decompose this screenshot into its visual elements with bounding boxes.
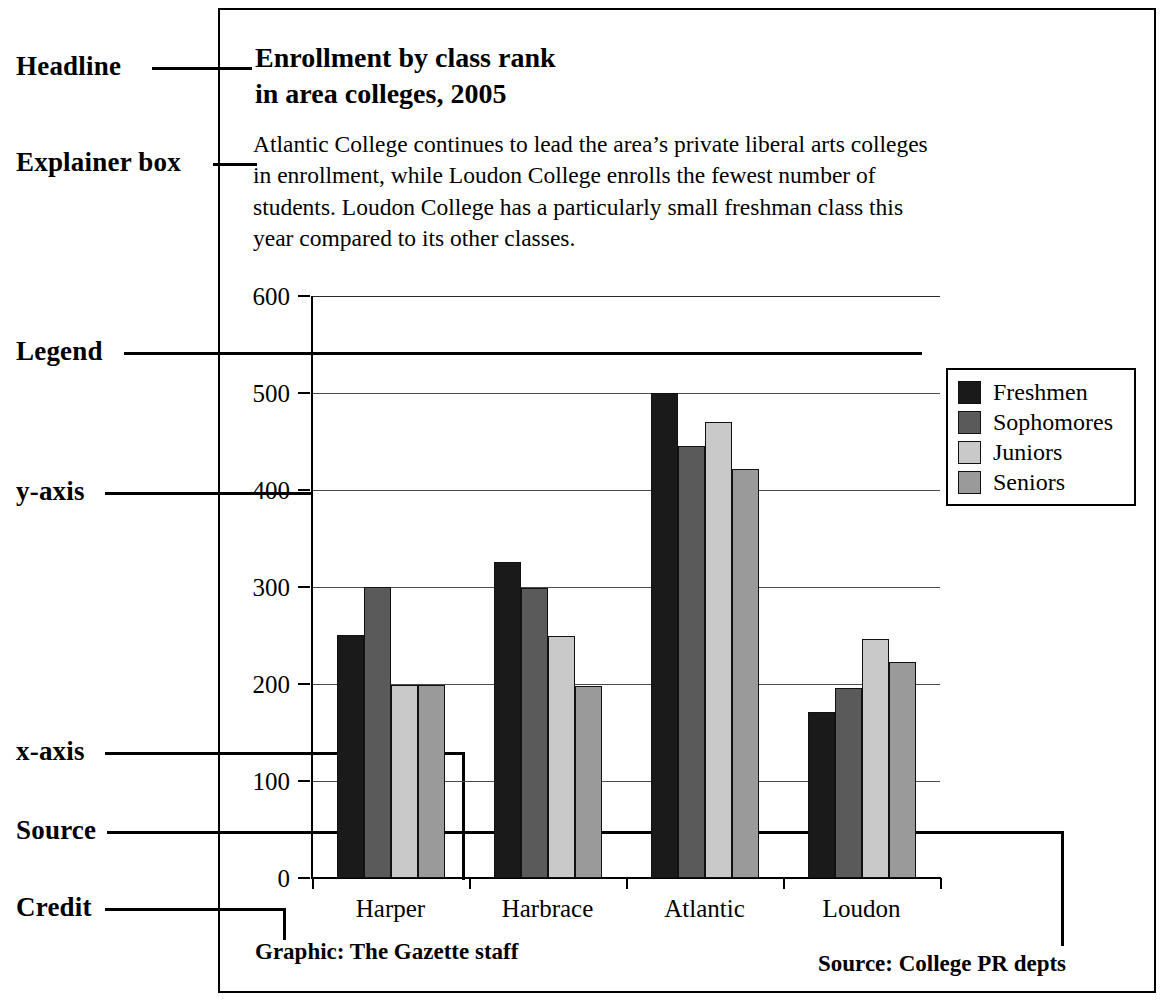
bar bbox=[548, 636, 575, 878]
y-tick-mark-300 bbox=[298, 586, 310, 588]
x-tick-label-harbrace: Harbrace bbox=[502, 896, 594, 921]
bar bbox=[732, 469, 759, 878]
bar bbox=[364, 587, 391, 878]
annotation-label-explainer-box: Explainer box bbox=[16, 149, 181, 176]
headline-line-2: in area colleges, 2005 bbox=[255, 76, 895, 112]
x-tick-mark bbox=[626, 878, 628, 889]
bar bbox=[521, 588, 548, 878]
legend-item: Seniors bbox=[958, 467, 1134, 497]
credit-text: Graphic: The Gazette staff bbox=[255, 940, 518, 963]
y-tick-label-600: 600 bbox=[253, 284, 291, 309]
plot-area: HarperHarbraceAtlanticLoudon bbox=[312, 296, 940, 878]
bar bbox=[651, 393, 678, 878]
y-tick-label-100: 100 bbox=[253, 769, 291, 794]
x-tick-label-loudon: Loudon bbox=[823, 896, 901, 921]
y-tick-mark-600 bbox=[298, 295, 310, 297]
bar bbox=[678, 446, 705, 878]
annotation-label-legend: Legend bbox=[16, 338, 103, 365]
y-tick-mark-0 bbox=[298, 877, 310, 879]
x-tick-mark bbox=[783, 878, 785, 889]
x-tick-label-atlantic: Atlantic bbox=[664, 896, 745, 921]
y-tick-mark-100 bbox=[298, 780, 310, 782]
page-title: Enrollment by class rank in area college… bbox=[255, 40, 895, 112]
bar-group bbox=[808, 296, 916, 878]
x-tick-label-harper: Harper bbox=[356, 896, 425, 921]
y-tick-label-500: 500 bbox=[253, 381, 291, 406]
legend-swatch-icon bbox=[958, 381, 981, 404]
annotation-label-source: Source bbox=[16, 817, 96, 844]
bar bbox=[808, 712, 835, 878]
y-tick-label-300: 300 bbox=[253, 575, 291, 600]
bar bbox=[575, 686, 602, 878]
legend-item-label: Sophomores bbox=[993, 410, 1113, 434]
y-tick-label-400: 400 bbox=[253, 478, 291, 503]
bar-chart: HarperHarbraceAtlanticLoudon bbox=[312, 296, 940, 878]
headline-line-1: Enrollment by class rank bbox=[255, 40, 895, 76]
legend-swatch-icon bbox=[958, 471, 981, 494]
legend-item-label: Juniors bbox=[993, 440, 1062, 464]
legend-item: Sophomores bbox=[958, 407, 1134, 437]
bar bbox=[391, 685, 418, 878]
annotation-label-y-axis: y-axis bbox=[16, 478, 85, 505]
legend-item: Freshmen bbox=[958, 377, 1134, 407]
bar bbox=[494, 562, 521, 878]
y-axis-tick-labels: 0100200300400500600 bbox=[232, 296, 290, 878]
bar-series-container: HarperHarbraceAtlanticLoudon bbox=[312, 296, 940, 878]
annotation-label-x-axis: x-axis bbox=[16, 738, 85, 765]
legend-swatch-icon bbox=[958, 441, 981, 464]
bar bbox=[337, 635, 364, 878]
bar bbox=[862, 639, 889, 878]
legend-swatch-icon bbox=[958, 411, 981, 434]
x-tick-mark bbox=[312, 878, 314, 889]
legend-item-label: Freshmen bbox=[993, 380, 1088, 404]
y-tick-label-200: 200 bbox=[253, 672, 291, 697]
bar bbox=[889, 662, 916, 878]
bar-group bbox=[651, 296, 759, 878]
annotation-label-credit: Credit bbox=[16, 894, 92, 921]
bar bbox=[705, 422, 732, 878]
legend-item-label: Seniors bbox=[993, 470, 1065, 494]
bar-group bbox=[337, 296, 445, 878]
x-tick-mark bbox=[469, 878, 471, 889]
source-text: Source: College PR depts bbox=[818, 952, 1066, 975]
annotation-label-headline: Headline bbox=[16, 53, 121, 80]
bar bbox=[418, 685, 445, 878]
y-tick-label-0: 0 bbox=[278, 866, 291, 891]
bar-group bbox=[494, 296, 602, 878]
bar bbox=[835, 688, 862, 878]
explainer-box: Atlantic College continues to lead the a… bbox=[253, 129, 943, 254]
y-tick-mark-400 bbox=[298, 489, 310, 491]
legend-item: Juniors bbox=[958, 437, 1134, 467]
y-tick-mark-500 bbox=[298, 392, 310, 394]
y-tick-mark-200 bbox=[298, 683, 310, 685]
legend: FreshmenSophomoresJuniorsSeniors bbox=[946, 368, 1136, 506]
x-tick-mark bbox=[940, 878, 942, 889]
